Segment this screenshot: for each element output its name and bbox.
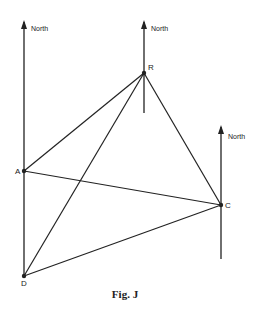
segment-a-r <box>24 73 144 171</box>
point-a <box>22 169 26 173</box>
point-d <box>22 274 26 278</box>
north-arrow-r: North <box>141 20 168 113</box>
segments <box>24 73 221 276</box>
segment-r-c <box>144 73 221 205</box>
label-c: C <box>225 201 231 210</box>
north-label: North <box>228 133 245 140</box>
label-d: D <box>21 279 27 288</box>
north-arrow-left: North <box>21 20 48 276</box>
arrow-up-icon <box>21 20 27 29</box>
arrow-up-icon <box>141 20 147 29</box>
points <box>22 71 223 278</box>
label-r: R <box>148 63 154 72</box>
point-c <box>219 203 223 207</box>
north-arrow-c: North <box>218 125 245 259</box>
arrow-up-icon <box>218 125 224 134</box>
segment-a-c <box>24 171 221 205</box>
point-r <box>142 71 146 75</box>
diagram-canvas: North North North A R C D Fig. J <box>0 0 265 310</box>
figure-caption: Fig. J <box>112 288 139 300</box>
north-label: North <box>31 25 48 32</box>
north-label: North <box>151 25 168 32</box>
segment-d-c <box>24 205 221 276</box>
label-a: A <box>15 167 21 176</box>
